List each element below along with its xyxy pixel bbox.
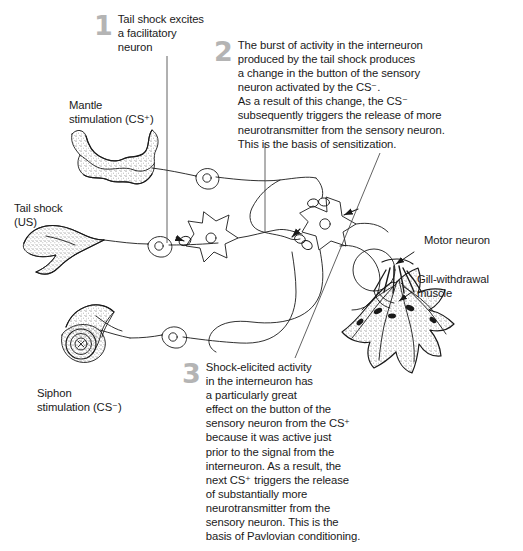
figure-canvas: 1 Tail shock excites a facilitatory neur… xyxy=(0,0,523,551)
callout-2-text: The burst of activity in the interneuron… xyxy=(238,38,445,151)
tail-sensory-neuron xyxy=(104,237,218,258)
callout-1-number: 1 xyxy=(94,12,112,39)
label-siphon-stimulation: Siphon stimulation (CS⁻) xyxy=(37,386,122,414)
mantle-tissue-shape xyxy=(72,130,158,184)
callout-3: 3 Shock-elicited activity in the interne… xyxy=(182,360,442,543)
button-cs-minus xyxy=(307,197,330,208)
motor-neuron xyxy=(340,223,395,310)
button-facilitatory xyxy=(176,235,192,247)
callout-3-number: 3 xyxy=(182,360,200,387)
siphon-sensory-neuron xyxy=(130,252,296,348)
interneuron xyxy=(300,197,356,250)
callout-1: 1 Tail shock excites a facilitatory neur… xyxy=(94,12,204,54)
callout-3-text: Shock-elicited activity in the interneur… xyxy=(206,360,360,543)
label-mantle-stimulation: Mantle stimulation (CS⁺) xyxy=(69,98,154,126)
button-cs-plus xyxy=(293,233,313,251)
mantle-sensory-neuron xyxy=(152,168,316,189)
callout-1-text: Tail shock excites a facilitatory neuron xyxy=(118,12,204,54)
label-tail-shock: Tail shock (US) xyxy=(14,201,63,229)
callout-2: 2 The burst of activity in the interneur… xyxy=(214,38,519,151)
label-motor-neuron: Motor neuron xyxy=(424,233,490,247)
tail-tissue-shape xyxy=(23,225,104,274)
facilitatory-neuron xyxy=(186,212,238,262)
label-gill-withdrawal-muscle: Gill-withdrawal muscle xyxy=(417,272,489,300)
callout-2-number: 2 xyxy=(214,38,232,65)
siphon-tissue-shape xyxy=(61,305,130,363)
